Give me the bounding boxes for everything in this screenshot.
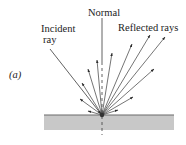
reflected-ray	[102, 44, 132, 115]
incident-ray-label-line1: Incident	[41, 23, 75, 34]
reflected-ray	[102, 37, 165, 115]
reflected-ray	[102, 53, 112, 115]
reflecting-surface	[44, 115, 174, 130]
normal-label: Normal	[88, 7, 120, 18]
reflected-ray	[82, 83, 102, 115]
diffuse-reflection-diagram: Normal Incident ray Reflected rays (a)	[0, 0, 186, 145]
reflected-ray	[102, 97, 133, 115]
reflected-rays-label: Reflected rays	[118, 22, 178, 33]
incident-ray-label-line2: ray	[43, 34, 56, 45]
reflected-ray	[102, 35, 150, 115]
incident-ray	[50, 49, 101, 114]
reflection-point	[100, 113, 104, 117]
reflected-ray	[102, 69, 154, 115]
panel-label: (a)	[9, 69, 21, 80]
